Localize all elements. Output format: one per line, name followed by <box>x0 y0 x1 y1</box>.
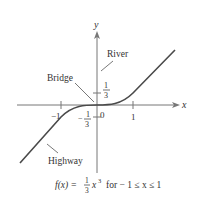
y-axis-label: y <box>93 19 99 30</box>
bridge-pointer <box>75 83 94 102</box>
caption-x: x <box>91 180 97 190</box>
tick-label-y-neg-third-num: 1 <box>86 110 90 119</box>
tick-label-x-neg1: −1 <box>51 111 61 121</box>
tick-label-y-third-den: 3 <box>104 91 108 100</box>
caption-lhs: f(x) = <box>55 180 77 191</box>
label-bridge: Bridge <box>47 73 73 83</box>
caption: f(x) = 1 3 x 3 for − 1 ≤ x ≤ 1 <box>55 176 162 195</box>
tick-label-y-neg-third-den: 3 <box>85 120 89 129</box>
label-highway: Highway <box>48 156 83 166</box>
caption-frac-num: 1 <box>85 176 89 185</box>
river-pointer <box>101 61 113 71</box>
tick-label-x-1: 1 <box>131 112 136 122</box>
label-river: River <box>107 49 129 59</box>
x-axis-label: x <box>181 99 187 110</box>
caption-rhs: for − 1 ≤ x ≤ 1 <box>106 180 162 190</box>
highway-pointer <box>47 144 58 153</box>
tick-label-y-neg-sign: − <box>78 114 83 123</box>
function-diagram: y x River Bridge Highway −1 0 1 1 3 − 1 … <box>0 0 197 203</box>
tick-label-y-third-num: 1 <box>104 81 108 90</box>
caption-frac-den: 3 <box>85 186 89 195</box>
axes <box>17 31 180 173</box>
tick-label-x-0: 0 <box>100 110 105 120</box>
caption-exp: 3 <box>98 177 101 184</box>
